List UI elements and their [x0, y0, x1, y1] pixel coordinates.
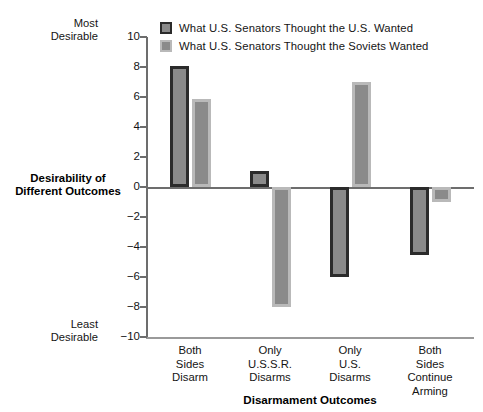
axis-anchor-low-line1: Least — [28, 318, 98, 331]
legend-swatch-series-2-icon — [160, 40, 172, 52]
y-tick-mark — [140, 36, 147, 38]
bar-series-1-category-1 — [170, 66, 189, 188]
y-axis-title-line1: Desirability of — [8, 172, 128, 185]
axis-anchor-high-line2: Desirable — [28, 30, 98, 43]
y-tick-label-text: −6 — [112, 270, 140, 282]
legend-label-series-1: What U.S. Senators Thought the U.S. Want… — [179, 22, 413, 34]
y-tick-mark — [140, 96, 147, 98]
x-axis-title: Disarmament Outcomes — [150, 393, 470, 406]
y-tick-mark — [140, 126, 147, 128]
bar-series-2-category-4 — [432, 187, 451, 202]
chart-canvas: What U.S. Senators Thought the U.S. Want… — [0, 0, 483, 412]
x-category-label-line: Disarm — [148, 371, 232, 385]
y-tick-mark — [140, 336, 147, 338]
y-tick-label-text: 8 — [112, 60, 140, 72]
y-tick-label-text: 4 — [112, 120, 140, 132]
y-tick-mark — [140, 306, 147, 308]
bar-series-1-category-3 — [330, 187, 349, 277]
x-category-label-line: Continue — [388, 371, 472, 385]
axis-anchor-low-line2: Desirable — [28, 331, 98, 344]
x-category-label-line: Disarms — [228, 371, 312, 385]
y-tick-label-text: 0 — [112, 180, 140, 192]
legend-item-series-1: What U.S. Senators Thought the U.S. Want… — [160, 20, 428, 36]
x-category-label-3: OnlyU.S.Disarms — [308, 344, 392, 385]
y-tick-mark — [140, 216, 147, 218]
y-tick-mark — [140, 246, 147, 248]
legend-swatch-series-1-icon — [160, 22, 172, 34]
y-tick-label-text: 2 — [112, 150, 140, 162]
y-tick-label-text: −2 — [112, 210, 140, 222]
x-category-label-line: Both — [148, 344, 232, 358]
x-category-label-line: Sides — [388, 358, 472, 372]
bar-series-1-category-4 — [410, 187, 429, 255]
x-category-label-line: Disarms — [308, 371, 392, 385]
y-axis-title: Desirability of Different Outcomes — [8, 172, 128, 198]
y-tick-label-text: 10 — [112, 30, 140, 42]
x-axis-line — [146, 337, 474, 339]
y-axis-title-line2: Different Outcomes — [8, 185, 128, 198]
y-tick-label-text: −4 — [112, 240, 140, 252]
chart-legend: What U.S. Senators Thought the U.S. Want… — [160, 20, 428, 56]
y-tick-mark — [140, 276, 147, 278]
axis-anchor-high-line1: Most — [28, 17, 98, 30]
y-tick-mark — [140, 66, 147, 68]
y-tick-mark — [140, 156, 147, 158]
axis-anchor-low: Least Desirable — [28, 318, 98, 343]
legend-item-series-2: What U.S. Senators Thought the Soviets W… — [160, 38, 428, 54]
legend-label-series-2: What U.S. Senators Thought the Soviets W… — [179, 40, 428, 52]
axis-anchor-high: Most Desirable — [28, 17, 98, 42]
x-category-label-4: BothSidesContinueArming — [388, 344, 472, 398]
y-tick-label-text: −8 — [112, 300, 140, 312]
bar-series-1-category-2 — [250, 171, 269, 188]
x-category-label-line: Sides — [148, 358, 232, 372]
x-category-label-line: Only — [228, 344, 312, 358]
bar-series-2-category-2 — [272, 187, 291, 307]
y-tick-mark — [140, 186, 147, 188]
y-tick-label-text: 6 — [112, 90, 140, 102]
x-category-label-line: U.S.S.R. — [228, 358, 312, 372]
x-category-label-line: U.S. — [308, 358, 392, 372]
bar-series-2-category-3 — [352, 82, 371, 187]
bar-series-2-category-1 — [192, 99, 211, 188]
x-category-label-line: Only — [308, 344, 392, 358]
x-category-label-2: OnlyU.S.S.R.Disarms — [228, 344, 312, 385]
x-category-label-1: BothSidesDisarm — [148, 344, 232, 385]
y-tick-label-text: −10 — [112, 330, 140, 342]
x-category-label-line: Both — [388, 344, 472, 358]
